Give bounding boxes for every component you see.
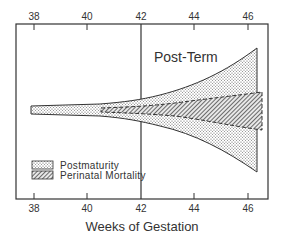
top-tick-38: 38: [28, 11, 40, 22]
legend-swatch-mortality: [32, 171, 53, 179]
top-tick-44: 44: [188, 11, 200, 22]
bottom-tick-40: 40: [81, 203, 93, 214]
gestation-chart: 38 40 42 44 46 38 40 42 44 46 Post-Term …: [0, 0, 284, 239]
top-tick-labels: 38 40 42 44 46: [28, 11, 254, 22]
bottom-tick-labels: 38 40 42 44 46: [28, 203, 254, 214]
top-tick-46: 46: [242, 11, 254, 22]
bottom-tick-44: 44: [188, 203, 200, 214]
legend-label-mortality: Perinatal Mortality: [60, 170, 146, 181]
x-axis-title: Weeks of Gestation: [85, 219, 198, 234]
bottom-tick-38: 38: [28, 203, 40, 214]
top-tick-42: 42: [135, 11, 147, 22]
legend: Postmaturity Perinatal Mortality: [32, 160, 146, 181]
bottom-tick-42: 42: [135, 203, 147, 214]
bottom-tick-46: 46: [242, 203, 254, 214]
top-tick-40: 40: [81, 11, 93, 22]
legend-swatch-postmaturity: [32, 161, 53, 169]
post-term-label: Post-Term: [154, 49, 218, 65]
